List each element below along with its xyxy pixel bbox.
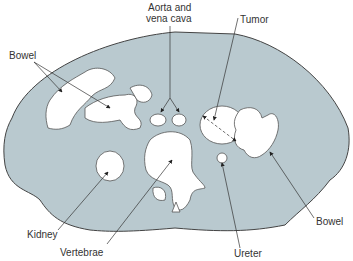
label-bowel-left: Bowel: [9, 50, 36, 61]
aorta: [150, 114, 166, 126]
label-kidney: Kidney: [27, 229, 58, 240]
label-bowel-right: Bowel: [316, 216, 343, 227]
abdomen-cross-section: [0, 0, 353, 261]
vena-cava: [172, 114, 186, 126]
label-tumor: Tumor: [240, 14, 269, 25]
label-ureter: Ureter: [234, 248, 262, 259]
label-vertebrae: Vertebrae: [60, 247, 103, 258]
label-aorta-line1: Aorta and: [148, 2, 191, 13]
kidney: [96, 151, 124, 181]
label-aorta-line2: vena cava: [146, 13, 192, 24]
ureter: [217, 153, 227, 163]
